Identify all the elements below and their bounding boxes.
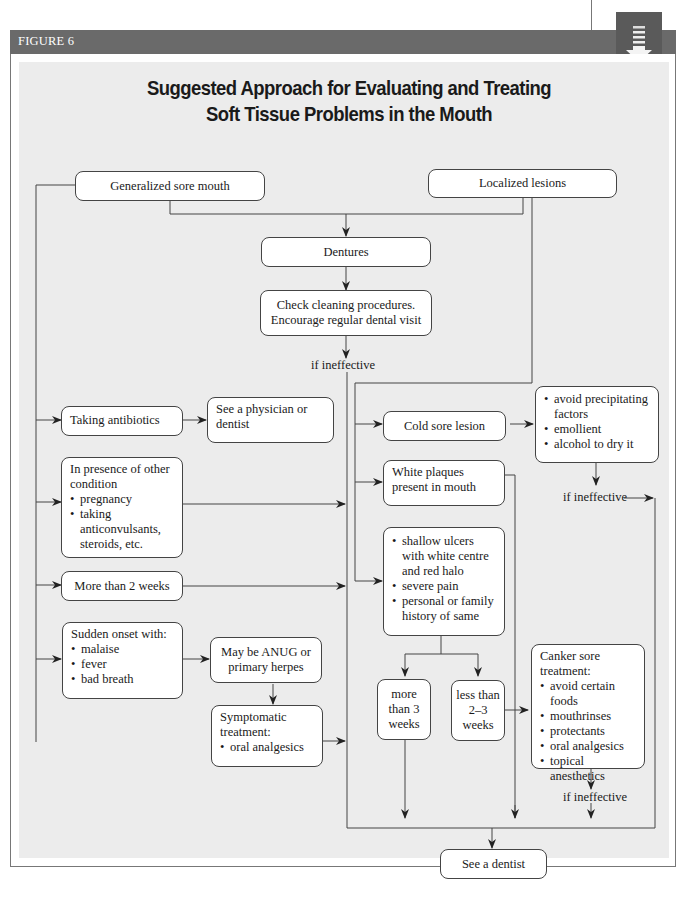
list-item: topical anesthetics [540,754,636,784]
list-item: protectants [540,724,636,739]
node-label-line-1: Check cleaning procedures. [277,298,415,313]
node-localized-lesions: Localized lesions [428,169,617,198]
canker-treatment-list: avoid certain foods mouthrinses protecta… [540,679,636,784]
node-label: less than 2–3 weeks [456,688,500,733]
list-item: mouthrinses [540,709,636,724]
node-other-condition: In presence of other condition pregnancy… [61,457,183,558]
cold-sore-treatment-list: avoid precipitating factors emollient al… [544,392,650,452]
node-label: More than 2 weeks [74,579,169,594]
node-see-a-dentist: See a dentist [440,849,547,879]
condition-list: pregnancy taking anticonvulsants, steroi… [70,492,174,552]
list-item: shallow ulcers with white centre and red… [392,534,496,579]
node-anug: May be ANUG or primary herpes [210,637,322,683]
label-if-ineffective-main: if ineffective [311,358,375,373]
node-label: See a physician or dentist [216,402,307,431]
list-item: emollient [544,422,650,437]
node-label: Cold sore lesion [404,419,485,434]
node-dentures: Dentures [261,237,431,267]
symptom-list: malaise fever bad breath [71,642,174,687]
node-label: Generalized sore mouth [110,179,229,194]
list-item: bad breath [71,672,174,687]
node-label: more than 3 weeks [382,687,426,732]
node-white-plaques: White plaques present in mouth [383,460,505,506]
node-less-than-2-3-weeks: less than 2–3 weeks [451,680,505,741]
node-label: Localized lesions [479,176,566,191]
node-heading: Symptomatic treatment: [220,710,314,740]
node-label: May be ANUG or primary herpes [211,645,321,675]
list-item: severe pain [392,579,496,594]
treatment-list: oral analgesics [220,740,314,755]
node-label: White plaques present in mouth [392,465,476,494]
list-item: oral analgesics [220,740,314,755]
node-ulcers: shallow ulcers with white centre and red… [383,527,505,636]
node-taking-antibiotics: Taking antibiotics [61,406,183,436]
list-item: avoid precipitating factors [544,392,650,422]
node-heading: In presence of other condition [70,462,174,492]
list-item: fever [71,657,174,672]
list-item: personal or family history of same [392,594,496,624]
node-label: See a dentist [462,857,525,872]
ulcer-symptom-list: shallow ulcers with white centre and red… [392,534,496,624]
label-if-ineffective-canker: if ineffective [563,790,627,805]
node-sudden-onset: Sudden onset with: malaise fever bad bre… [62,622,183,699]
list-item: taking anticonvulsants, steroids, etc. [70,507,174,552]
node-cold-sore-treatment: avoid precipitating factors emollient al… [535,386,659,463]
list-item: malaise [71,642,174,657]
node-see-physician: See a physician or dentist [207,397,334,443]
node-symptomatic-treatment: Symptomatic treatment: oral analgesics [211,705,323,767]
node-heading: Canker sore treatment: [540,649,636,679]
node-label: Taking antibiotics [70,413,160,427]
list-item: pregnancy [70,492,174,507]
list-item: avoid certain foods [540,679,636,709]
list-item: oral analgesics [540,739,636,754]
node-more-than-2-weeks: More than 2 weeks [61,571,183,601]
node-generalized-sore-mouth: Generalized sore mouth [75,171,265,201]
label-if-ineffective-cold-sore: if ineffective [563,490,627,505]
node-label: Dentures [323,245,368,260]
list-item: alcohol to dry it [544,437,650,452]
node-canker-sore-treatment: Canker sore treatment: avoid certain foo… [531,644,645,769]
node-label-line-2: Encourage regular dental visit [271,313,421,328]
node-check-cleaning: Check cleaning procedures. Encourage reg… [260,290,432,336]
node-heading: Sudden onset with: [71,627,174,642]
node-more-than-3-weeks: more than 3 weeks [377,679,431,740]
node-cold-sore: Cold sore lesion [383,411,506,441]
